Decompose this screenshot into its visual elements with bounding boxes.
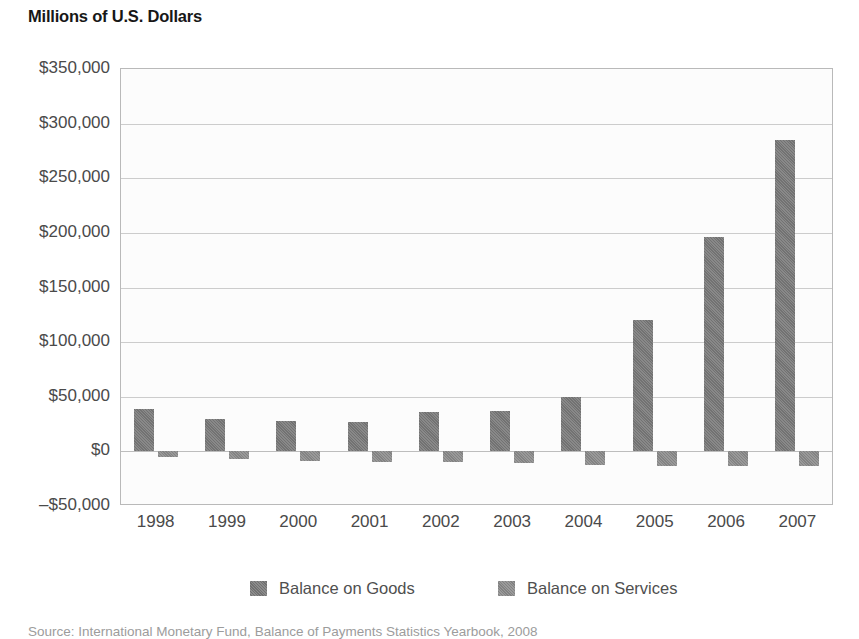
x-tick-label-1998: 1998 [137,512,175,532]
bar-balance-on-goods-2007 [775,140,795,451]
x-tick-label-1999: 1999 [208,512,246,532]
plot-area [120,68,833,505]
legend-swatch-icon [498,581,515,596]
bar-balance-on-goods-1998 [134,409,154,452]
bar-balance-on-services-2001 [372,451,392,461]
bar-balance-on-services-2002 [443,451,463,462]
bar-balance-on-goods-2004 [561,397,581,452]
bar-balance-on-services-2003 [514,451,534,462]
bar-balance-on-goods-2006 [704,237,724,451]
legend-item-balance-on-goods[interactable]: Balance on Goods [250,579,415,598]
legend: Balance on GoodsBalance on Services [0,579,859,605]
legend-item-balance-on-services[interactable]: Balance on Services [498,579,677,598]
plot-inner [121,69,832,504]
y-tick-label: $250,000 [0,167,110,187]
legend-label: Balance on Services [527,579,677,598]
bar-balance-on-services-2005 [657,451,677,465]
bar-balance-on-goods-2002 [419,412,439,451]
gridline [121,233,832,234]
gridline [121,124,832,125]
bar-balance-on-services-2004 [585,451,605,465]
y-tick-label: $200,000 [0,222,110,242]
x-tick-label-2003: 2003 [493,512,531,532]
page-title: Millions of U.S. Dollars [28,7,202,26]
bar-balance-on-goods-2000 [276,421,296,452]
x-tick-label-2005: 2005 [636,512,674,532]
bar-balance-on-services-1999 [229,451,249,459]
gridline [121,451,832,452]
gridline [121,397,832,398]
bar-balance-on-goods-2003 [490,411,510,451]
bar-balance-on-services-1998 [158,451,178,456]
y-tick-label: $50,000 [0,386,110,406]
bar-balance-on-services-2007 [799,451,819,466]
source-note: Source: International Monetary Fund, Bal… [28,624,538,639]
y-tick-label: $300,000 [0,113,110,133]
bar-balance-on-services-2006 [728,451,748,466]
x-tick-label-2001: 2001 [351,512,389,532]
gridline [121,178,832,179]
bar-balance-on-services-2000 [300,451,320,460]
gridline [121,342,832,343]
legend-swatch-icon [250,581,267,596]
bar-balance-on-goods-2001 [348,422,368,451]
x-tick-label-2007: 2007 [778,512,816,532]
bar-balance-on-goods-2005 [633,320,653,451]
x-tick-label-2004: 2004 [565,512,603,532]
y-tick-label: $100,000 [0,331,110,351]
legend-label: Balance on Goods [279,579,415,598]
y-tick-label: –$50,000 [0,495,110,515]
x-tick-label-2000: 2000 [279,512,317,532]
x-tick-label-2006: 2006 [707,512,745,532]
y-tick-label: $150,000 [0,277,110,297]
gridline [121,288,832,289]
x-axis: 1998199920002001200220032004200520062007 [120,512,833,542]
bar-balance-on-goods-1999 [205,419,225,452]
x-tick-label-2002: 2002 [422,512,460,532]
y-axis: $350,000$300,000$250,000$200,000$150,000… [0,68,110,505]
y-tick-label: $350,000 [0,58,110,78]
y-tick-label: $0 [0,440,110,460]
